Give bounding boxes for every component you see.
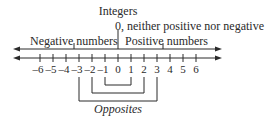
tick-label: –1 — [97, 63, 109, 75]
tick-label: 6 — [193, 63, 199, 75]
tick-labels: –6 –5 –4 –3 –2 –1 0 1 2 3 4 5 6 — [32, 63, 200, 75]
tick-label: –6 — [32, 63, 45, 75]
bracket-3 — [79, 77, 157, 101]
tick-label: 5 — [180, 63, 186, 75]
tick-label: 4 — [167, 63, 173, 75]
left-arrow-icon — [13, 56, 20, 61]
tick-label: 2 — [141, 63, 147, 75]
bracket-1 — [105, 77, 131, 85]
left-arrow-icon — [13, 47, 20, 52]
right-arrow-icon — [215, 47, 222, 52]
zero-label: 0, neither positive nor negative — [115, 19, 264, 33]
positive-numbers-label: Positive numbers — [125, 34, 208, 48]
integers-title: Integers — [99, 4, 138, 18]
opposites-brackets — [79, 77, 157, 101]
tick-label: –3 — [71, 63, 84, 75]
tick-label: –5 — [45, 63, 58, 75]
number-line — [16, 54, 218, 62]
tick-label: –4 — [58, 63, 71, 75]
opposites-label: Opposites — [94, 102, 142, 116]
tick-label: 0 — [115, 63, 121, 75]
tick-label: –2 — [84, 63, 96, 75]
tick-label: 1 — [128, 63, 134, 75]
tick-label: 3 — [154, 63, 160, 75]
integers-number-line-diagram: Integers 0, neither positive nor negativ… — [0, 0, 271, 121]
right-arrow-icon — [215, 56, 222, 61]
